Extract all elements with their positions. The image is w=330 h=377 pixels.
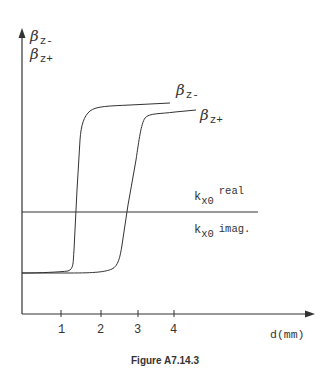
y-axis-arrow-icon: [19, 28, 26, 38]
curve-beta-z-plus: [22, 110, 196, 273]
x-tick-label: 3: [134, 323, 141, 337]
curve-label-beta-z-minus: βz-: [175, 81, 199, 101]
curve-label-beta-z-plus: βz+: [199, 106, 223, 126]
x-tick-label: 1: [58, 323, 65, 337]
figure: 1 2 3 4 d(mm) βz- βz+ βz- βz+ kx0real kx…: [0, 0, 330, 377]
x-tick-label: 4: [170, 323, 177, 337]
x-axis-arrow-icon: [305, 311, 315, 318]
x-tick-label: 2: [97, 323, 104, 337]
y-axis-label-top: βz-: [29, 27, 53, 47]
figure-caption: Figure A7.14.3: [0, 355, 330, 366]
x-axis-label: d(mm): [270, 328, 305, 341]
annotation-kx0-real: kx0real: [194, 185, 244, 207]
y-axis-label-bottom: βz+: [29, 45, 53, 65]
annotation-kx0-imag: kx0imag.: [194, 223, 250, 240]
curve-beta-z-minus: [22, 103, 170, 273]
